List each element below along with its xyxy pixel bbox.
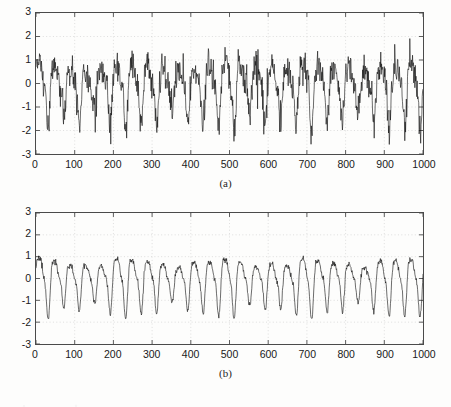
x-tick-label: 0: [15, 158, 55, 170]
plot-area-b: [35, 212, 424, 345]
y-tick-label: -2: [9, 124, 31, 136]
x-tick-label: 600: [248, 158, 288, 170]
x-tick-label: 300: [132, 348, 172, 360]
x-tick-label: 800: [326, 348, 366, 360]
y-tick-label: -1: [9, 294, 31, 306]
y-tick-label: 2: [9, 227, 31, 239]
x-tick-label: 300: [132, 158, 172, 170]
panel-b-caption: (b): [0, 367, 451, 379]
x-tick-label: 200: [93, 158, 133, 170]
x-tick-label: 700: [287, 348, 327, 360]
x-tick-label: 1000: [404, 158, 444, 170]
x-tick-label: 800: [326, 158, 366, 170]
x-tick-label: 0: [15, 348, 55, 360]
y-tick-label: -1: [9, 100, 31, 112]
x-tick-label: 700: [287, 158, 327, 170]
plot-svg-b: [36, 213, 423, 344]
y-tick-label: 1: [9, 53, 31, 65]
x-tick-label: 100: [54, 348, 94, 360]
y-tick-label: 3: [9, 205, 31, 217]
y-tick-label: 2: [9, 29, 31, 41]
x-tick-label: 100: [54, 158, 94, 170]
y-tick-label: 0: [9, 77, 31, 89]
x-tick-label: 500: [210, 348, 250, 360]
y-tick-label: 1: [9, 249, 31, 261]
x-tick-label: 400: [171, 348, 211, 360]
y-tick-label: 3: [9, 5, 31, 17]
figure-container: (a) (b) -3-2-101230100200300400500600700…: [0, 0, 451, 407]
x-tick-label: 400: [171, 158, 211, 170]
y-tick-label: 0: [9, 272, 31, 284]
x-tick-label: 1000: [404, 348, 444, 360]
x-tick-label: 500: [210, 158, 250, 170]
x-tick-label: 200: [93, 348, 133, 360]
panel-b: (b): [0, 0, 451, 407]
x-tick-label: 900: [365, 158, 405, 170]
x-tick-label: 600: [248, 348, 288, 360]
y-tick-label: -2: [9, 316, 31, 328]
x-tick-label: 900: [365, 348, 405, 360]
